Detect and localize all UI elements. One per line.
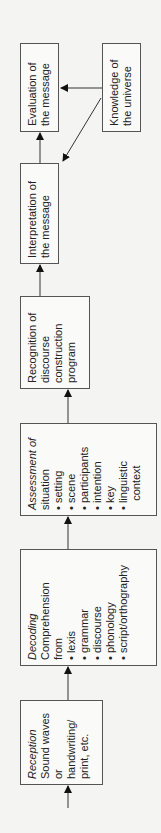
decoding-item: Comprehension (39, 565, 52, 660)
decoding-title: Decoding (26, 565, 39, 660)
evaluation-line1: Evaluation of (26, 62, 39, 126)
knowledge-line1: Knowledge of (108, 59, 121, 126)
reception-item: Sound waves (39, 713, 52, 779)
assessment-item: • key (104, 438, 117, 510)
evaluation-line2: the message (39, 62, 52, 126)
decoding-item: • phonology (104, 565, 117, 660)
assessment-title2: situation (39, 438, 52, 510)
decoding-item: • grammar (78, 565, 91, 660)
recognition-line2: discourse (39, 313, 52, 383)
assessment-item: • participants (78, 438, 91, 510)
recognition-line4: program (65, 313, 78, 383)
assessment-item: • linguistic (117, 438, 130, 510)
assessment-box: Assessment of situation • setting • scen… (20, 423, 157, 516)
recognition-box: Recognition of discourse construction pr… (20, 296, 90, 389)
decoding-item: • script/orthography (117, 565, 130, 660)
reception-title: Reception (26, 713, 39, 779)
interpretation-line2: the message (39, 181, 52, 258)
interpretation-box: Interpretation of the message (20, 163, 59, 264)
reception-item: or (52, 713, 65, 779)
reception-item: handwriting/ (65, 713, 78, 779)
recognition-line1: Recognition of (26, 313, 39, 383)
decoding-box: Decoding Comprehension from • lexis • gr… (20, 549, 157, 666)
knowledge-line2: the universe (121, 59, 134, 126)
assessment-item: • intention (91, 438, 104, 510)
decoding-item: • discourse (91, 565, 104, 660)
reception-item: print, etc. (78, 713, 91, 779)
interpretation-line1: Interpretation of (26, 181, 39, 258)
assessment-item: context (130, 438, 143, 510)
recognition-line3: construction (52, 313, 65, 383)
knowledge-box: Knowledge of the universe (102, 43, 141, 132)
decoding-item: from (52, 565, 65, 660)
evaluation-box: Evaluation of the message (20, 43, 59, 132)
reception-box: Reception Sound waves or handwriting/ pr… (20, 700, 103, 785)
assessment-item: • scene (65, 438, 78, 510)
decoding-item: • lexis (65, 565, 78, 660)
assessment-item: • setting (52, 438, 65, 510)
assessment-title: Assessment of (26, 438, 39, 510)
